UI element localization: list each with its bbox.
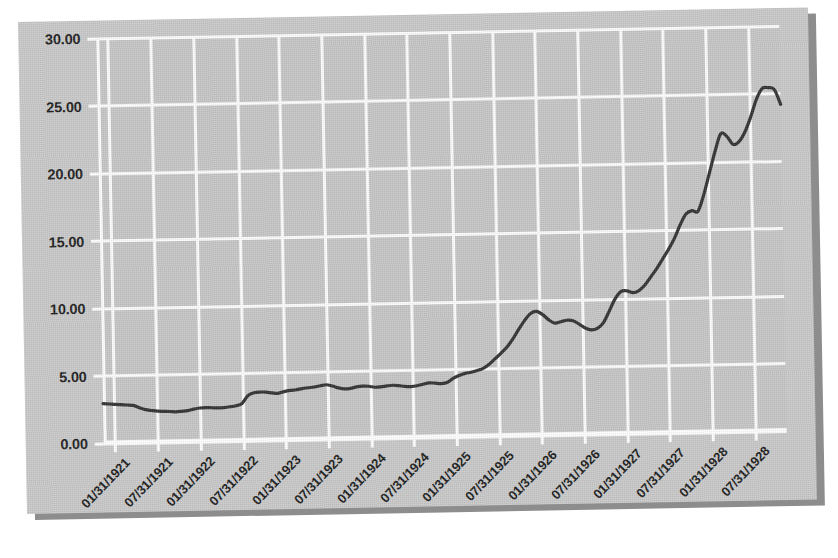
- y-axis-tick-label: 25.00: [46, 98, 82, 115]
- x-axis-tick-mark: [413, 438, 416, 447]
- plot-area: 0.005.0010.0015.0020.0025.0030.00 01/31/…: [96, 26, 786, 443]
- y-axis-tick-mark: [89, 105, 98, 108]
- x-axis-tick-mark: [712, 432, 715, 441]
- x-axis-tick-mark: [498, 436, 501, 445]
- y-axis-tick-mark: [91, 240, 100, 243]
- y-axis-tick-mark: [87, 37, 96, 40]
- chart-card: 0.005.0010.0015.0020.0025.0030.00 01/31/…: [18, 8, 817, 514]
- y-axis-tick-mark: [95, 442, 104, 445]
- x-axis-tick-mark: [584, 435, 587, 444]
- y-axis-tick-label: 20.00: [47, 166, 83, 183]
- y-axis-tick-mark: [90, 172, 99, 175]
- x-axis-tick-mark: [328, 439, 331, 448]
- x-axis-tick-mark: [456, 437, 459, 446]
- x-axis-tick-mark: [285, 440, 288, 449]
- x-axis-tick-mark: [541, 435, 544, 444]
- chart-figure: 0.005.0010.0015.0020.0025.0030.00 01/31/…: [0, 0, 838, 558]
- x-axis-tick-mark: [370, 439, 373, 448]
- y-axis-tick-mark: [93, 375, 102, 378]
- x-axis-tick-mark: [626, 434, 629, 443]
- series-line-index: [97, 87, 786, 413]
- y-axis-tick-label: 5.00: [59, 368, 87, 384]
- x-axis-tick-mark: [242, 441, 245, 450]
- x-axis-tick-mark: [200, 442, 203, 451]
- y-axis-tick-mark: [92, 307, 101, 310]
- y-axis-tick-label: 30.00: [45, 31, 81, 48]
- y-axis-tick-label: 0.00: [60, 436, 88, 452]
- y-axis-tick-label: 15.00: [49, 233, 85, 250]
- series-svg: [96, 26, 786, 443]
- x-axis-tick-mark: [669, 433, 672, 442]
- x-axis-tick-mark: [157, 442, 160, 451]
- y-axis-tick-label: 10.00: [50, 301, 86, 318]
- x-axis-tick-mark: [754, 432, 757, 441]
- x-axis-tick-mark: [114, 443, 117, 452]
